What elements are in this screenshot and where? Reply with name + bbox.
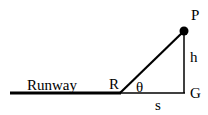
point-r-label: R (109, 76, 119, 92)
runway-diagram: Runway R θ P h G s (0, 0, 208, 115)
point-g-label: G (190, 85, 201, 101)
point-p-label: P (191, 7, 199, 23)
plane-point-p (180, 27, 189, 36)
angle-theta-label: θ (136, 79, 143, 95)
distance-s-label: s (155, 97, 161, 113)
height-h-label: h (190, 49, 198, 65)
runway-label: Runway (27, 77, 77, 93)
line-of-sight (120, 31, 184, 93)
